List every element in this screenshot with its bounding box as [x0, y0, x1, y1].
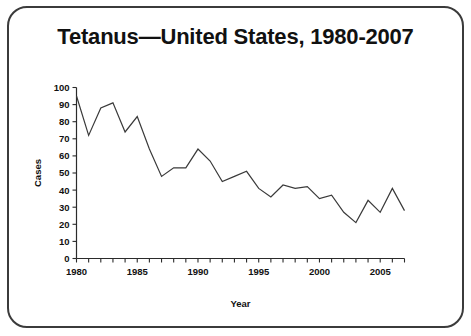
- y-axis-tick-label: 0: [64, 253, 69, 264]
- line-chart: 0102030405060708090100 19801985199019952…: [0, 0, 471, 336]
- y-axis-tick-label: 50: [59, 167, 70, 178]
- x-axis-title: Year: [230, 298, 250, 309]
- y-axis-tick-label: 70: [59, 133, 70, 144]
- y-axis-title: Cases: [32, 159, 43, 187]
- y-axis-tick-label: 40: [59, 185, 70, 196]
- y-axis-tick-label: 90: [59, 99, 70, 110]
- x-axis-tick-label: 2000: [309, 266, 330, 277]
- y-axis-tick-label: 20: [59, 219, 70, 230]
- y-axis-tick-label: 80: [59, 116, 70, 127]
- data-series-cases: [77, 96, 405, 223]
- y-axis-tick-label: 10: [59, 236, 70, 247]
- y-axis-tick-label: 30: [59, 202, 70, 213]
- slide-canvas: Tetanus—United States, 1980-2007 0102030…: [0, 0, 471, 336]
- x-axis-tick-label: 1980: [66, 266, 87, 277]
- x-axis-tick-labels: 198019851990199520002005: [66, 266, 392, 277]
- y-axis-tick-label: 100: [54, 82, 70, 93]
- x-axis-tick-label: 1995: [248, 266, 270, 277]
- y-axis-tick-label: 60: [59, 150, 70, 161]
- y-axis-tick-labels: 0102030405060708090100: [54, 82, 70, 264]
- chart-svg: 0102030405060708090100 19801985199019952…: [0, 0, 471, 336]
- x-axis-tick-label: 1990: [187, 266, 208, 277]
- x-axis-tick-label: 2005: [370, 266, 392, 277]
- x-axis-tick-label: 1985: [127, 266, 149, 277]
